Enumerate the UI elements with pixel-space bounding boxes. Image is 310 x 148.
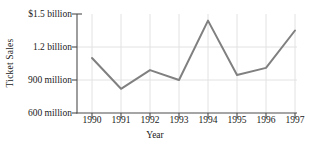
line-chart: Ticket Sales $1.5 billion 1.2 billion 90…	[0, 0, 310, 148]
x-tick-label: 1997	[275, 115, 310, 125]
y-axis-ticks	[72, 14, 77, 113]
data-series-line	[92, 21, 295, 89]
x-axis-title: Year	[0, 130, 310, 140]
x-axis-tick-labels: 1990 1991 1992 1993 1994 1995 1996 1997	[0, 115, 310, 129]
